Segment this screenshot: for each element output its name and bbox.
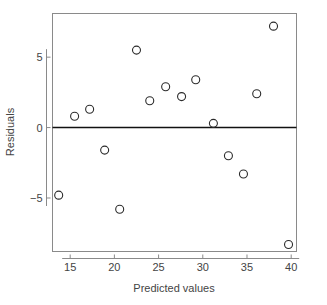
x-axis-ticks: 152025303540 xyxy=(62,255,299,273)
data-point xyxy=(86,105,94,113)
x-tick-label: 20 xyxy=(108,261,120,273)
data-point xyxy=(55,191,63,199)
data-point xyxy=(253,90,261,98)
data-point xyxy=(224,152,232,160)
data-point xyxy=(285,240,293,248)
data-point xyxy=(209,119,217,127)
data-point xyxy=(116,205,124,213)
y-tick-label: −5 xyxy=(30,192,43,204)
x-tick-label: 25 xyxy=(152,261,164,273)
data-point xyxy=(71,112,79,120)
y-axis-title: Residuals xyxy=(4,107,16,156)
scatter-chart-canvas: 152025303540 50−5 Predicted values Resid… xyxy=(0,0,327,305)
plot-frame-rect xyxy=(53,14,297,252)
plot-frame xyxy=(53,14,297,252)
data-point xyxy=(162,83,170,91)
data-point xyxy=(132,46,140,54)
data-point xyxy=(239,170,247,178)
y-tick-label: 5 xyxy=(36,51,42,63)
x-tick-label: 35 xyxy=(241,261,253,273)
x-axis-title: Predicted values xyxy=(133,282,215,294)
data-point xyxy=(178,93,186,101)
x-tick-label: 15 xyxy=(64,261,76,273)
x-tick-label: 40 xyxy=(285,261,297,273)
data-point xyxy=(270,22,278,30)
data-point xyxy=(192,76,200,84)
x-tick-label: 30 xyxy=(197,261,209,273)
data-point xyxy=(101,146,109,154)
y-tick-label: 0 xyxy=(36,122,42,134)
residual-plot: 152025303540 50−5 Predicted values Resid… xyxy=(0,0,327,305)
y-axis-ticks: 50−5 xyxy=(30,49,51,206)
data-point xyxy=(146,97,154,105)
data-points xyxy=(55,22,293,248)
